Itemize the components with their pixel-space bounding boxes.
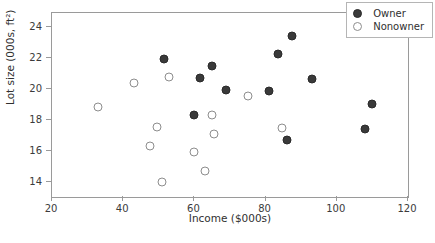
data-point-owner: [307, 74, 316, 83]
x-axis-label: Income ($000s): [51, 212, 409, 224]
data-point-nonowner: [94, 103, 103, 112]
data-point-nonowner: [208, 111, 217, 120]
scatter-plot-figure: 20406080100120141618202224 Income ($000s…: [0, 0, 435, 243]
x-axis-tick: [122, 196, 123, 201]
data-point-nonowner: [158, 178, 167, 187]
x-axis-tick: [51, 196, 52, 201]
x-axis-tick: [336, 196, 337, 201]
data-point-owner: [160, 55, 169, 64]
data-point-owner: [195, 73, 204, 82]
data-point-nonowner: [243, 92, 252, 101]
open-circle-icon: [353, 22, 362, 31]
data-point-owner: [208, 61, 217, 70]
data-points-layer: [52, 13, 408, 197]
y-axis-tick-label: 24: [29, 20, 42, 31]
y-axis-tick-label: 18: [29, 113, 42, 124]
data-point-owner: [190, 111, 199, 120]
data-point-owner: [274, 49, 283, 58]
y-axis-tick: [46, 26, 51, 27]
data-point-nonowner: [209, 129, 218, 138]
y-axis-tick: [46, 150, 51, 151]
y-axis-tick-label: 22: [29, 51, 42, 62]
data-point-nonowner: [153, 123, 162, 132]
data-point-nonowner: [277, 124, 286, 133]
legend-label: Owner: [373, 8, 406, 19]
y-axis-label: Lot size (000s, ft²): [4, 10, 16, 105]
data-point-nonowner: [129, 79, 138, 88]
legend: OwnerNonowner: [346, 2, 433, 38]
data-point-owner: [282, 135, 291, 144]
legend-label: Nonowner: [373, 21, 424, 32]
legend-item-owner[interactable]: Owner: [353, 7, 424, 20]
data-point-owner: [288, 32, 297, 41]
y-axis-tick: [46, 119, 51, 120]
y-axis-tick: [46, 181, 51, 182]
data-point-owner: [265, 87, 274, 96]
y-axis-tick: [46, 88, 51, 89]
data-point-nonowner: [165, 73, 174, 82]
x-axis-tick: [407, 196, 408, 201]
y-axis-tick-label: 20: [29, 82, 42, 93]
data-point-owner: [222, 86, 231, 95]
y-axis-tick-label: 16: [29, 144, 42, 155]
legend-item-nonowner[interactable]: Nonowner: [353, 20, 424, 33]
data-point-nonowner: [201, 166, 210, 175]
y-axis-tick-label: 14: [29, 175, 42, 186]
data-point-nonowner: [190, 148, 199, 157]
x-axis-tick: [193, 196, 194, 201]
filled-circle-icon: [353, 9, 362, 18]
x-axis-tick: [265, 196, 266, 201]
data-point-owner: [368, 100, 377, 109]
data-point-nonowner: [145, 141, 154, 150]
plot-area: [51, 12, 409, 198]
y-axis-tick: [46, 57, 51, 58]
data-point-owner: [361, 124, 370, 133]
